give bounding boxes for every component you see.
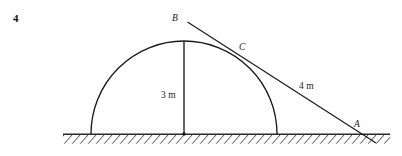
dimension-label-height: 3 m [161,91,176,101]
dimension-label-tangent: 4 m [299,82,314,92]
point-label-a: A [354,120,360,130]
point-label-c: C [239,43,245,53]
ground-hatching [63,135,390,144]
tangent-line-BA [188,22,377,143]
centre-point-dot [182,132,186,136]
geometry-diagram [0,0,402,156]
figure-page: 4 B C A 3 m 4 m [0,0,402,156]
point-label-b: B [172,14,178,24]
